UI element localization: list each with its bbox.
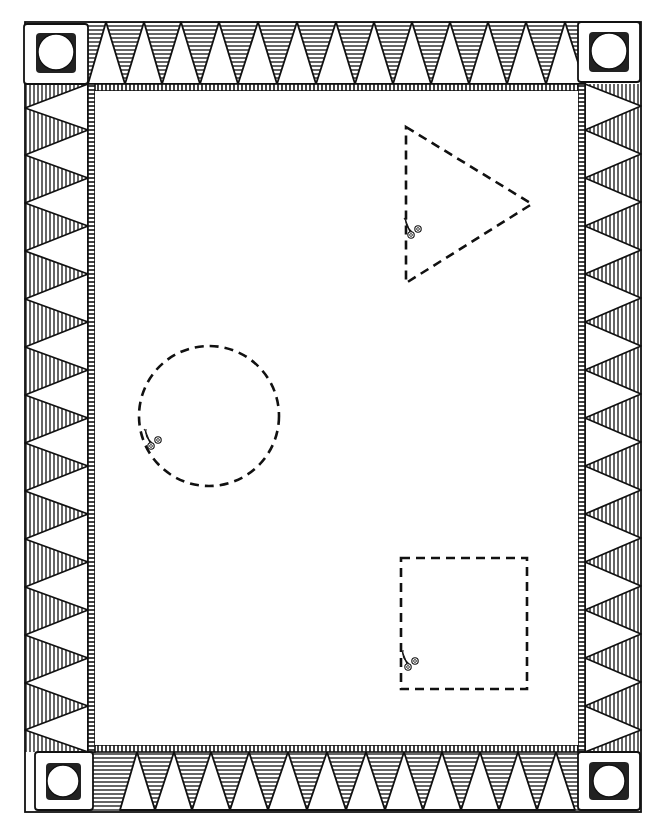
corner-ornament-top-right	[578, 22, 640, 82]
worksheet-canvas	[0, 0, 664, 835]
corner-ornament-bottom-right	[578, 752, 640, 810]
corner-ornament-top-left	[24, 24, 88, 84]
corner-ornament-bottom-left	[35, 752, 93, 810]
work-area	[95, 91, 578, 745]
